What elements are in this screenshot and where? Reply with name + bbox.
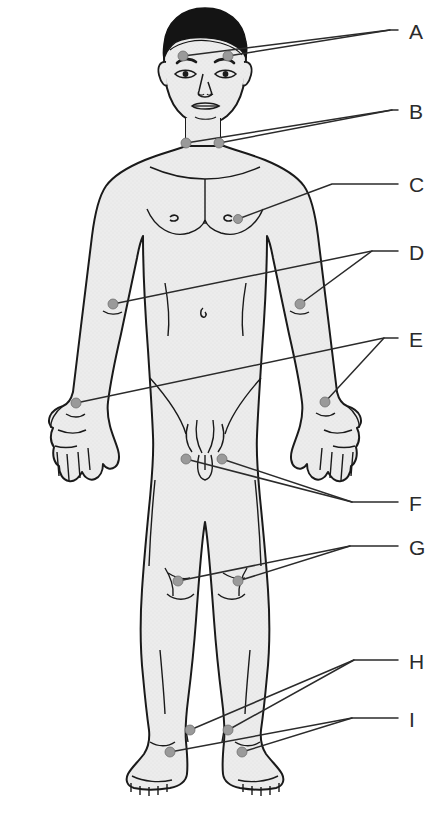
pulse-marker-dorsalis-pedis-left[interactable] bbox=[185, 725, 195, 735]
pulse-marker-radial-left[interactable] bbox=[71, 398, 81, 408]
pulse-marker-carotid-left[interactable] bbox=[181, 138, 191, 148]
pupil-right bbox=[223, 71, 229, 77]
pulse-marker-dorsalis-pedis-right[interactable] bbox=[223, 725, 233, 735]
leader-I-1 bbox=[170, 718, 398, 752]
label-letter-b: B bbox=[409, 101, 423, 122]
leader-B-2 bbox=[219, 110, 392, 143]
label-letter-a: A bbox=[409, 21, 423, 42]
label-letter-i: I bbox=[409, 709, 415, 730]
label-letter-e: E bbox=[409, 329, 423, 350]
pulse-marker-femoral-left[interactable] bbox=[181, 454, 191, 464]
pulse-marker-femoral-right[interactable] bbox=[217, 454, 227, 464]
pulse-marker-brachial-right[interactable] bbox=[295, 299, 305, 309]
pulse-marker-brachial-left[interactable] bbox=[108, 299, 118, 309]
label-letter-d: D bbox=[409, 242, 424, 263]
ear-left bbox=[158, 62, 167, 86]
pulse-marker-carotid-right[interactable] bbox=[214, 138, 224, 148]
pupil-left bbox=[183, 71, 189, 77]
body-silhouette bbox=[158, 8, 251, 150]
pulse-marker-apical-chest[interactable] bbox=[234, 215, 243, 224]
label-letter-g: G bbox=[409, 537, 426, 558]
label-letter-h: H bbox=[409, 651, 424, 672]
label-letter-f: F bbox=[409, 493, 422, 514]
pulse-marker-popliteal-left[interactable] bbox=[173, 576, 183, 586]
anatomy-figure-svg bbox=[0, 0, 443, 818]
pulse-marker-posterior-tibial-right[interactable] bbox=[237, 747, 247, 757]
pulse-marker-temporal-left[interactable] bbox=[178, 51, 188, 61]
pulse-marker-radial-right[interactable] bbox=[320, 397, 330, 407]
pulse-marker-posterior-tibial-left[interactable] bbox=[165, 747, 175, 757]
pulse-marker-popliteal-right[interactable] bbox=[233, 576, 243, 586]
ear-right bbox=[243, 62, 252, 86]
leader-A-2 bbox=[228, 30, 390, 56]
pulse-marker-temporal-right[interactable] bbox=[223, 51, 233, 61]
pulse-point-diagram: ABCDEFGHI bbox=[0, 0, 443, 818]
label-letter-c: C bbox=[409, 174, 424, 195]
